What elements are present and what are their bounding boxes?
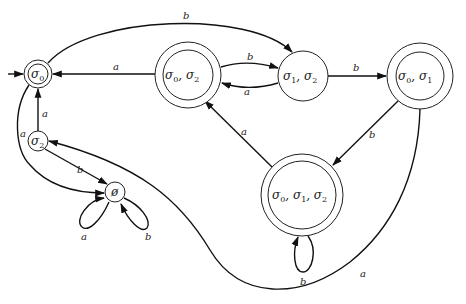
state-s0-s1: σ0, σ1 (387, 43, 453, 109)
edge-s012-loop-b (295, 236, 314, 272)
state-s0-s2: σ0, σ2 (155, 42, 221, 108)
edge-empty-loop-a (80, 198, 109, 228)
edge-s12-s02-a (222, 83, 278, 88)
edge-label-b: b (77, 164, 83, 175)
edge-s01-s2-a (49, 109, 420, 289)
edge-label-b: b (183, 10, 189, 21)
edge-label-a: a (360, 268, 366, 279)
svg-text:ø: ø (110, 185, 119, 199)
state-s1-s2: σ1, σ2 (278, 51, 328, 101)
edge-label-b: b (353, 62, 359, 73)
edge-label-b: b (369, 129, 375, 140)
edge-label-a: a (244, 86, 250, 97)
state-diagram: b a b a b b a b a a a b a b σ0 σ0, (0, 0, 466, 304)
edge-empty-loop-b (121, 198, 148, 229)
state-s2: σ2 (28, 131, 48, 151)
svg-text:σ0, σ1: σ0, σ1 (398, 69, 432, 85)
state-s0-s1-s2: σ0, σ1, σ2 (261, 154, 343, 236)
edge-label-a: a (20, 128, 26, 139)
edge-label-a: a (113, 61, 119, 72)
edge-s2-empty-b (45, 149, 107, 184)
state-empty: ø (105, 182, 125, 202)
edge-s01-s012-b (333, 101, 398, 165)
edge-label-b: b (145, 231, 151, 242)
edge-s02-s12-b (221, 63, 278, 68)
svg-text:σ1, σ2: σ1, σ2 (283, 69, 317, 85)
edge-label-a: a (42, 108, 48, 119)
edge-label-b: b (247, 51, 253, 62)
svg-text:σ0, σ2: σ0, σ2 (165, 68, 199, 84)
edge-label-a: a (241, 126, 247, 137)
edge-label-a: a (81, 231, 87, 242)
edge-s012-s02-a (205, 101, 272, 167)
state-s0: σ0 (24, 60, 52, 88)
